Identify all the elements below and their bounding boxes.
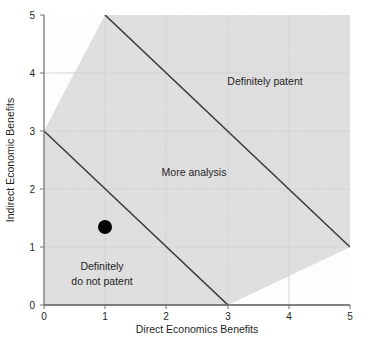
y-axis-tick-labels: 0 1 2 3 4 5 xyxy=(29,10,35,311)
x-axis-tick-labels: 0 1 2 3 4 5 xyxy=(41,311,353,322)
x-tick-label-2: 2 xyxy=(163,311,169,322)
definitely-do-not-patent-label-line2: do not patent xyxy=(71,275,132,287)
y-tick-label-5: 5 xyxy=(29,10,35,21)
more-analysis-label: More analysis xyxy=(162,166,227,178)
scatter-chart-canvas: 0 1 2 3 4 5 0 1 2 3 4 5 Direct Economics… xyxy=(0,0,365,337)
y-axis-title: Indirect Economic Benefits xyxy=(4,98,16,222)
x-tick-label-4: 4 xyxy=(286,311,292,322)
y-tick-label-2: 2 xyxy=(29,184,35,195)
y-tick-label-4: 4 xyxy=(29,68,35,79)
definitely-patent-label: Definitely patent xyxy=(227,75,302,87)
x-tick-label-0: 0 xyxy=(41,311,47,322)
y-tick-label-0: 0 xyxy=(29,300,35,311)
chart-figure: 0 1 2 3 4 5 0 1 2 3 4 5 Direct Economics… xyxy=(0,0,365,337)
y-tick-label-3: 3 xyxy=(29,126,35,137)
x-tick-label-5: 5 xyxy=(347,311,353,322)
x-tick-label-1: 1 xyxy=(102,311,108,322)
y-tick-label-1: 1 xyxy=(29,242,35,253)
definitely-do-not-patent-label-line1: Definitely xyxy=(80,260,124,272)
data-point-marker xyxy=(98,220,112,234)
x-tick-label-3: 3 xyxy=(225,311,231,322)
x-axis-title: Direct Economics Benefits xyxy=(136,323,259,335)
